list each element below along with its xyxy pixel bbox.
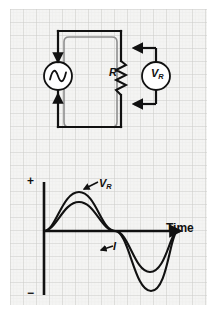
voltage-curve-label: VR <box>99 177 112 191</box>
y-axis-positive-label: + <box>27 174 34 188</box>
figure-artwork <box>0 0 218 323</box>
voltage-curve <box>44 192 178 291</box>
waveform-graph <box>44 182 180 295</box>
figure-root: R VR VR I Time + − <box>0 0 218 323</box>
voltage-curve-label-sub: R <box>106 182 111 191</box>
current-curve <box>44 202 178 272</box>
voltage-label-leader <box>84 182 98 189</box>
current-path-loop <box>64 37 117 127</box>
voltmeter-label-sub: R <box>158 72 163 81</box>
current-curve-label: I <box>113 240 116 252</box>
y-axis-negative-label: − <box>27 286 34 300</box>
voltmeter-label: VR <box>151 67 164 81</box>
resistor-label: R <box>109 66 117 78</box>
current-label-leader <box>101 246 113 250</box>
x-axis-label: Time <box>166 221 194 235</box>
